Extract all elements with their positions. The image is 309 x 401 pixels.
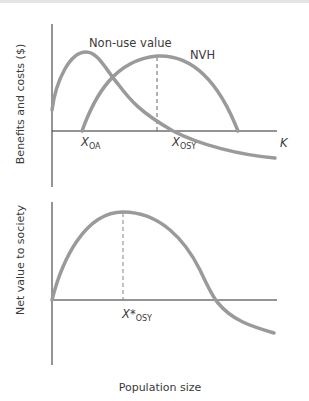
non-use-value-label: Non-use value [89,36,172,50]
x-axis-label: Population size [119,381,202,394]
top-y-axis-label: Benefits and costs ($) [14,44,27,164]
nvh-label: NVH [190,48,215,62]
k-label: K [280,136,289,150]
x-oa-label: XOA [80,135,101,151]
net-value-curve [52,212,274,333]
top-panel: Non-use value NVH XOA XOSY K Benefits an… [14,24,289,187]
bottom-panel: X*OSY Net value to society [14,202,277,365]
bottom-y-axis-label: Net value to society [14,204,27,315]
x-osy-star-label: X*OSY [121,307,152,323]
diagram-canvas: Non-use value NVH XOA XOSY K Benefits an… [0,0,309,401]
